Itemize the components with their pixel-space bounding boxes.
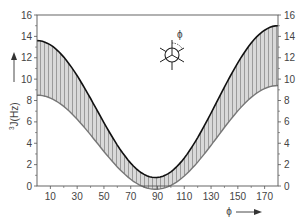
karplus-chart: 0246810121416 0246810121416 103050709011… — [0, 0, 300, 223]
y-axis-arrow-icon — [11, 52, 17, 60]
y-tick-label-right: 2 — [284, 159, 290, 170]
x-tick-label: 130 — [203, 191, 220, 202]
right-y-axis: 0246810121416 — [278, 10, 296, 192]
ylabel-text: J(Hz) — [9, 102, 20, 126]
newman-phi-label: ϕ — [177, 29, 183, 40]
x-tick-label: 90 — [152, 191, 164, 202]
y-tick-label-right: 10 — [284, 74, 296, 85]
y-tick-label: 10 — [21, 74, 33, 85]
y-tick-label: 14 — [21, 31, 33, 42]
y-tick-label-right: 0 — [284, 181, 290, 192]
y-tick-label-right: 16 — [284, 10, 296, 21]
y-tick-label: 2 — [26, 159, 32, 170]
y-tick-label-right: 12 — [284, 52, 296, 63]
x-tick-label: 30 — [72, 191, 84, 202]
y-tick-label-right: 4 — [284, 138, 290, 149]
x-tick-label: 50 — [98, 191, 110, 202]
y-tick-label-right: 8 — [284, 95, 290, 106]
y-tick-label: 6 — [26, 116, 32, 127]
x-tick-label: 170 — [256, 191, 273, 202]
y-tick-label: 16 — [21, 10, 33, 21]
y-tick-label: 12 — [21, 52, 33, 63]
x-tick-label: 150 — [229, 191, 246, 202]
left-y-axis: 0246810121416 — [21, 10, 37, 192]
y-tick-label-right: 6 — [284, 116, 290, 127]
x-axis-title: ϕ — [226, 206, 262, 217]
y-tick-label: 8 — [26, 95, 32, 106]
uncertainty-band — [37, 26, 278, 190]
newman-projection-icon: ϕ — [160, 29, 184, 70]
y-tick-label-right: 14 — [284, 31, 296, 42]
x-tick-label: 70 — [125, 191, 137, 202]
svg-text:3J(Hz): 3J(Hz) — [8, 102, 20, 130]
y-tick-label: 4 — [26, 138, 32, 149]
y-axis-title: 3J(Hz) — [8, 52, 20, 130]
x-tick-label: 110 — [176, 191, 192, 202]
plot-area — [37, 26, 278, 190]
x-axis-arrow-icon — [254, 209, 262, 215]
xlabel-text: ϕ — [226, 206, 232, 217]
y-tick-label: 0 — [26, 181, 32, 192]
x-tick-label: 10 — [45, 191, 57, 202]
